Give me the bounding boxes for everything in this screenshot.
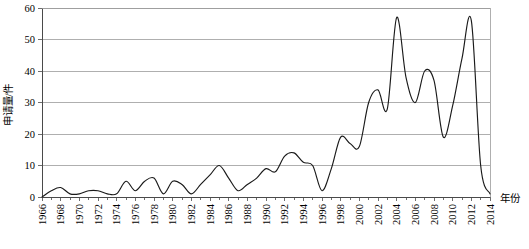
x-axis-ticks	[42, 197, 490, 201]
y-tick-label: 0	[30, 192, 35, 203]
y-tick-label: 40	[25, 66, 36, 77]
data-series-line	[42, 16, 490, 197]
x-tick-label: 1986	[223, 204, 234, 225]
x-tick-label: 1976	[130, 204, 141, 225]
gridlines-group	[42, 8, 490, 166]
x-tick-label: 2004	[391, 203, 402, 225]
y-axis-tick-labels: 0102030405060	[25, 3, 43, 203]
x-tick-label: 1984	[205, 203, 216, 225]
x-tick-label: 1998	[335, 204, 346, 225]
x-tick-label: 1990	[261, 204, 272, 225]
x-tick-label: 2002	[373, 204, 384, 225]
y-tick-label: 10	[25, 160, 36, 171]
x-tick-label: 1996	[317, 204, 328, 225]
x-tick-label: 2000	[354, 204, 365, 225]
y-tick-label: 60	[25, 3, 36, 14]
x-tick-label: 1980	[167, 204, 178, 225]
x-tick-label: 2006	[410, 204, 421, 225]
y-axis-title: 申请量/件	[2, 84, 14, 127]
x-tick-label: 1982	[186, 204, 197, 225]
x-tick-label: 2008	[429, 204, 440, 225]
x-tick-label: 1970	[74, 204, 85, 225]
x-tick-label: 2012	[466, 204, 477, 225]
chart-container: 0102030405060 19661968197019721974197619…	[0, 0, 529, 249]
x-tick-label: 2010	[447, 204, 458, 225]
x-axis-title: 年份	[500, 192, 521, 204]
x-tick-label: 1968	[55, 204, 66, 225]
y-tick-label: 30	[25, 97, 36, 108]
y-tick-label: 20	[25, 129, 36, 140]
x-tick-label: 2014	[485, 203, 496, 225]
x-tick-label: 1974	[111, 203, 122, 225]
line-chart: 0102030405060 19661968197019721974197619…	[0, 0, 529, 249]
x-tick-label: 1966	[37, 204, 48, 225]
x-axis-tick-labels: 1966196819701972197419761978198019821984…	[37, 203, 496, 225]
x-tick-label: 1994	[298, 203, 309, 225]
x-tick-label: 1978	[149, 204, 160, 225]
x-tick-label: 1988	[242, 204, 253, 225]
y-tick-label: 50	[25, 34, 36, 45]
x-tick-label: 1972	[93, 204, 104, 225]
x-tick-label: 1992	[279, 204, 290, 225]
